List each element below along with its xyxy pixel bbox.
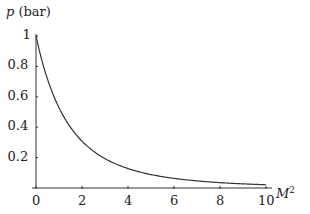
y-tick-label: 0.2 bbox=[8, 149, 29, 164]
y-axis-label: p (bar) bbox=[6, 4, 51, 19]
y-tick-label: 0.8 bbox=[8, 57, 29, 72]
data-curve bbox=[36, 36, 266, 185]
y-axis-var: p bbox=[6, 4, 14, 19]
x-tick-label: 8 bbox=[216, 193, 224, 208]
x-tick-label: 6 bbox=[170, 193, 178, 208]
y-tick-label: 1 bbox=[23, 27, 31, 42]
x-tick-label: 10 bbox=[258, 193, 275, 208]
x-tick-label: 0 bbox=[32, 193, 40, 208]
x-axis-var: M bbox=[276, 186, 289, 201]
y-axis-unit: (bar) bbox=[18, 4, 50, 19]
x-axis-exponent: 2 bbox=[289, 185, 295, 195]
x-tick-label: 4 bbox=[124, 193, 132, 208]
x-axis-label: M2 bbox=[276, 185, 295, 201]
y-tick-label: 0.6 bbox=[8, 88, 29, 103]
axes bbox=[32, 34, 272, 189]
y-tick-label: 0.4 bbox=[8, 118, 29, 133]
x-tick-label: 2 bbox=[78, 193, 86, 208]
chart-canvas bbox=[0, 0, 310, 214]
